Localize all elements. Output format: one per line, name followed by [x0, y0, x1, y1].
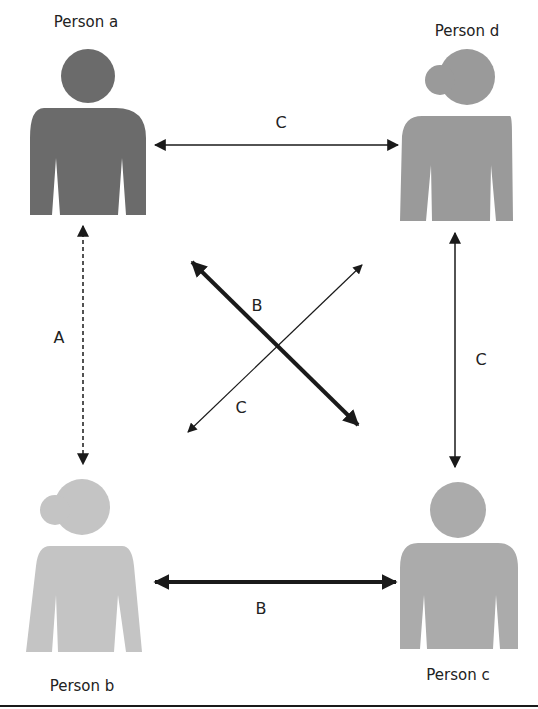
- edge-d-c: C: [455, 233, 487, 467]
- edge-a-b-label: A: [54, 328, 65, 347]
- person-a: Person a: [30, 13, 146, 215]
- person-b: Person b: [26, 479, 142, 695]
- person-d-label: Person d: [435, 22, 500, 40]
- male-figure-icon: [30, 49, 146, 215]
- edge-b-d: C: [188, 265, 362, 432]
- edge-b-c: B: [155, 582, 396, 618]
- person-c: Person c: [400, 482, 518, 684]
- edge-a-b: A: [54, 226, 83, 464]
- female-figure-icon: [26, 479, 142, 652]
- male-figure-icon: [400, 482, 518, 649]
- edge-a-d: C: [155, 113, 398, 145]
- edge-a-c: B: [192, 262, 358, 425]
- edge-b-d-label: C: [235, 398, 246, 417]
- person-b-label: Person b: [50, 677, 115, 695]
- edge-a-c-label: B: [252, 296, 263, 315]
- relationship-diagram: Person a Person d Person b Person c: [0, 0, 538, 709]
- person-a-label: Person a: [54, 13, 118, 31]
- edge-b-c-label: B: [256, 599, 267, 618]
- edge-a-d-label: C: [275, 113, 286, 132]
- edge-d-c-label: C: [475, 350, 486, 369]
- female-figure-icon: [400, 49, 513, 221]
- person-c-label: Person c: [426, 666, 489, 684]
- person-d: Person d: [400, 22, 513, 221]
